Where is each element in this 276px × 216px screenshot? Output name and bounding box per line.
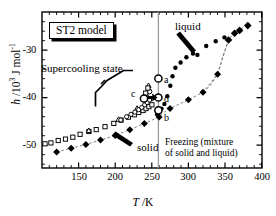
x-tick-label-0: 150 xyxy=(61,171,97,182)
y-axis-title: h /103 J mol-1 xyxy=(10,24,22,124)
chart-canvas xyxy=(0,0,276,216)
point-label-c: c xyxy=(131,88,135,99)
annotation-liquid: liquid xyxy=(175,20,201,32)
point-label-d: d xyxy=(164,93,169,104)
annotation-freezing-line2: of solid and liquid) xyxy=(165,148,238,159)
x-tick-label-5: 400 xyxy=(244,171,276,182)
point-label-a: a xyxy=(164,74,168,85)
x-tick-label-1: 200 xyxy=(97,171,133,182)
marked-point-c xyxy=(140,95,147,102)
x-tick-label-2: 250 xyxy=(134,171,170,182)
model-label-box: ST2 model xyxy=(49,22,114,39)
annotation-freezing-line1: Freezing (mixture xyxy=(165,137,233,148)
x-tick-label-4: 350 xyxy=(207,171,243,182)
point-label-b: b xyxy=(164,112,169,123)
chart-figure: ST2 model -30 -40 -50 150 200 250 300 35… xyxy=(0,0,276,216)
annotation-supercooling-state: Supercooling state xyxy=(41,62,123,74)
y-tick-label-2: -50 xyxy=(4,139,36,150)
annotation-solid: solid xyxy=(137,141,158,153)
marked-point-a xyxy=(155,75,162,82)
x-tick-label-3: 300 xyxy=(170,171,206,182)
model-label-text: ST2 model xyxy=(56,24,107,36)
x-axis-title: T /K xyxy=(108,196,178,208)
marked-point-b xyxy=(155,107,162,114)
